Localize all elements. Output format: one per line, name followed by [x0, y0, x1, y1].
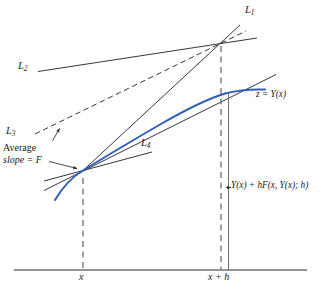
- label-average-slope-line1: Average: [3, 142, 42, 154]
- label-line-L4-subscript: 4: [147, 141, 151, 150]
- label-line-L3-subscript: 3: [12, 129, 16, 138]
- figure-container: L1 L2 L3 L4 z = Y(x) Average slope = F Y…: [0, 0, 321, 293]
- axis-tick-label-x: x: [79, 272, 83, 283]
- leader-arrow-to-L3: [53, 129, 60, 142]
- axis-tick-label-x-plus-h: x + h: [208, 272, 229, 283]
- line-L2: [38, 38, 257, 72]
- label-average-slope-line2: slope = F: [3, 154, 42, 166]
- leader-arrow-to-start-point: [49, 162, 77, 169]
- label-line-L4: L4: [141, 137, 151, 150]
- label-line-L1: L1: [245, 4, 255, 17]
- label-solution-curve: z = Y(x): [256, 89, 286, 99]
- line-L1: [83, 25, 240, 171]
- label-line-L2: L2: [18, 60, 28, 73]
- label-euler-step-expression: Y(x) + hF(x, Y(x); h): [231, 180, 308, 190]
- label-line-L3: L3: [6, 125, 16, 138]
- label-line-L2-subscript: 2: [24, 64, 28, 73]
- diagram-canvas: [0, 0, 321, 293]
- line-L3-dashed: [35, 31, 246, 134]
- label-line-L1-subscript: 1: [251, 8, 255, 17]
- label-average-slope: Average slope = F: [3, 142, 42, 166]
